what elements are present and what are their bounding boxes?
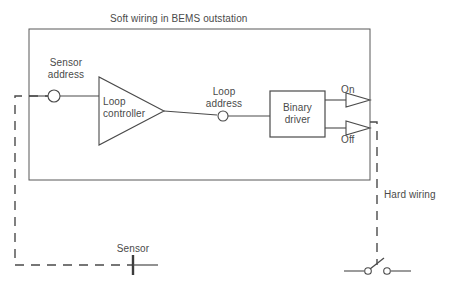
sensor-address-node-circle <box>48 90 60 102</box>
sensor-label: Sensor <box>108 243 158 255</box>
output-off-arrow-triangle <box>346 121 370 135</box>
diagram-canvas: Soft wiring in BEMS outstation Sensor ad… <box>0 0 451 294</box>
loop-address-label-line2: address <box>196 98 252 110</box>
loop-address-label-line1: Loop <box>196 86 252 98</box>
output-off-label: Off <box>341 134 354 146</box>
sensor-address-label-line2: address <box>36 69 96 81</box>
loop-controller-output-lead <box>164 111 217 115</box>
binary-driver-label-line1: Binary <box>270 102 325 114</box>
binary-driver-label-line2: driver <box>270 114 325 126</box>
loop-address-node-circle <box>218 111 228 121</box>
loop-controller-label-line1: Loop <box>103 96 126 108</box>
sensor-address-label-line1: Sensor <box>36 57 96 69</box>
hard-wiring-right-path <box>370 122 377 265</box>
switch-right-terminal <box>384 268 391 275</box>
diagram-graphics <box>0 0 451 294</box>
loop-controller-label-line2: controller <box>103 108 145 120</box>
hard-wiring-label: Hard wiring <box>384 189 436 201</box>
output-on-label: On <box>341 84 355 96</box>
soft-wiring-title: Soft wiring in BEMS outstation <box>110 13 248 25</box>
